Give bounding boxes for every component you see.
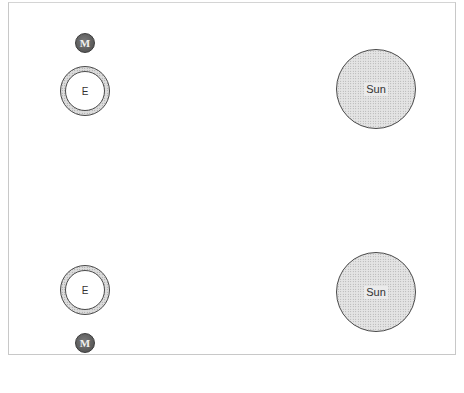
earth-inner: E xyxy=(65,270,105,310)
sun-top: Sun xyxy=(336,49,416,129)
diagram-frame: M E Sun E M Sun xyxy=(8,2,456,355)
sun-label: Sun xyxy=(364,286,388,299)
earth-top: E xyxy=(60,66,110,116)
earth-label: E xyxy=(82,86,89,97)
moon-label: M xyxy=(80,38,90,49)
sun-bottom: Sun xyxy=(336,252,416,332)
earth-inner: E xyxy=(65,71,105,111)
moon-bottom: M xyxy=(75,333,95,353)
moon-label: M xyxy=(80,338,90,349)
sun-label: Sun xyxy=(364,83,388,96)
earth-bottom: E xyxy=(60,265,110,315)
earth-label: E xyxy=(82,285,89,296)
moon-top: M xyxy=(75,33,95,53)
